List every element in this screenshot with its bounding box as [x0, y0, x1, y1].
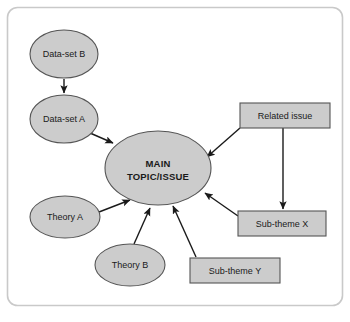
node-data-set-b[interactable]: Data-set B: [30, 30, 98, 78]
node-label-theory-b: Theory B: [112, 260, 149, 270]
edge-sub-theme-y-to-main: [173, 206, 196, 257]
edge-theory-b-to-main: [134, 208, 150, 244]
node-theory-b[interactable]: Theory B: [95, 244, 165, 286]
node-label-data-set-b: Data-set B: [43, 49, 86, 59]
edge-related-issue-to-main: [207, 128, 240, 157]
node-label-sub-theme-y: Sub-theme Y: [209, 266, 261, 276]
edge-sub-theme-x-to-main: [205, 193, 238, 216]
node-label-sub-theme-x: Sub-theme X: [256, 219, 309, 229]
node-label-related-issue: Related issue: [258, 111, 313, 121]
node-sub-theme-y[interactable]: Sub-theme Y: [190, 258, 280, 283]
node-label-data-set-a: Data-set A: [43, 114, 85, 124]
node-label-main-topic-line2: TOPIC/ISSUE: [127, 171, 189, 182]
node-related-issue[interactable]: Related issue: [240, 103, 330, 128]
edge-dataset-a-to-main: [90, 133, 113, 143]
concept-map-diagram: Data-set B Data-set A MAIN TOPIC/ISSUE T…: [0, 0, 350, 322]
node-main-topic[interactable]: MAIN TOPIC/ISSUE: [105, 131, 211, 205]
diagram-canvas: Data-set B Data-set A MAIN TOPIC/ISSUE T…: [0, 0, 350, 322]
node-sub-theme-x[interactable]: Sub-theme X: [238, 211, 326, 236]
edge-theory-a-to-main: [99, 200, 130, 212]
node-data-set-a[interactable]: Data-set A: [30, 95, 98, 143]
node-label-main-topic-line1: MAIN: [145, 158, 170, 169]
node-theory-a[interactable]: Theory A: [30, 196, 100, 238]
node-label-theory-a: Theory A: [47, 212, 83, 222]
